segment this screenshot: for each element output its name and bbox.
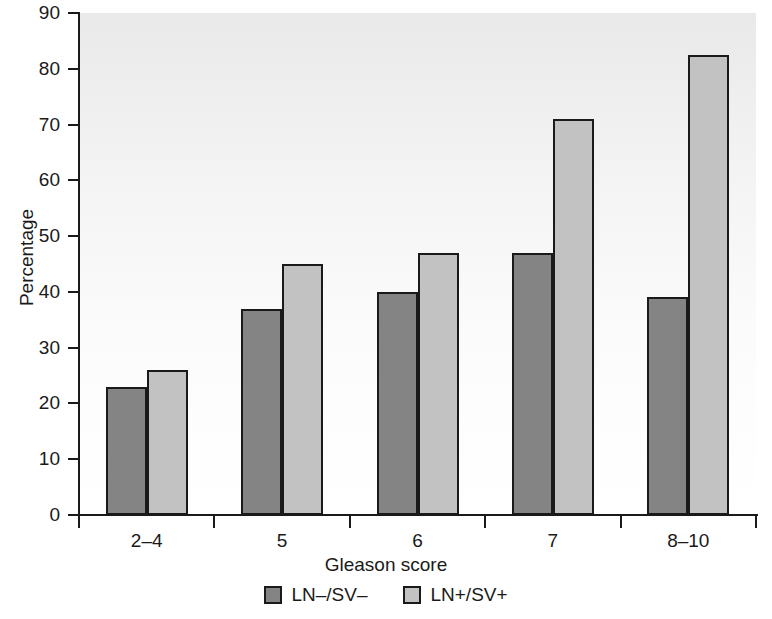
x-axis-title: Gleason score: [0, 554, 772, 575]
y-axis-title: Percentage: [17, 188, 36, 328]
y-axis-tick: [68, 514, 78, 516]
y-axis-line: [78, 12, 80, 516]
bar: [688, 55, 729, 515]
y-axis-tick: [68, 68, 78, 70]
y-axis-tick: [68, 124, 78, 126]
bar: [647, 297, 688, 515]
y-axis-tick-label: 30: [0, 338, 60, 357]
bar: [241, 309, 282, 515]
x-axis-tick: [484, 516, 486, 528]
legend-label: LN+/SV+: [430, 584, 507, 605]
y-axis-tick-label: 70: [0, 115, 60, 134]
y-axis-tick-label: 10: [0, 449, 60, 468]
x-axis-tick-label: 8–10: [608, 530, 768, 551]
legend-entry: LN–/SV–: [264, 584, 367, 605]
y-axis-tick-label: 60: [0, 170, 60, 189]
legend-swatch: [264, 586, 282, 604]
bar-chart-figure: 0102030405060708090 2–45678–10 Percentag…: [0, 0, 772, 619]
y-axis-tick: [68, 235, 78, 237]
x-axis-tick: [620, 516, 622, 528]
x-axis-tick: [213, 516, 215, 528]
y-axis-tick: [68, 12, 78, 14]
x-axis-tick: [755, 516, 757, 528]
bar: [282, 264, 323, 515]
y-axis-tick-label: 0: [0, 505, 60, 524]
legend-entry: LN+/SV+: [403, 584, 507, 605]
y-axis-tick-label: 20: [0, 393, 60, 412]
y-axis-tick: [68, 458, 78, 460]
legend-swatch: [403, 586, 421, 604]
bar: [553, 119, 594, 515]
bar: [418, 253, 459, 515]
x-axis-tick: [78, 516, 80, 528]
legend: LN–/SV–LN+/SV+: [0, 584, 772, 605]
y-axis-tick: [68, 402, 78, 404]
bar: [147, 370, 188, 515]
y-axis-tick: [68, 291, 78, 293]
y-axis-tick: [68, 347, 78, 349]
legend-label: LN–/SV–: [291, 584, 367, 605]
bar: [106, 387, 147, 515]
bar: [512, 253, 553, 515]
x-axis-tick: [349, 516, 351, 528]
bar: [377, 292, 418, 515]
y-axis-tick-label: 90: [0, 3, 60, 22]
y-axis-tick-label: 80: [0, 59, 60, 78]
y-axis-tick: [68, 179, 78, 181]
